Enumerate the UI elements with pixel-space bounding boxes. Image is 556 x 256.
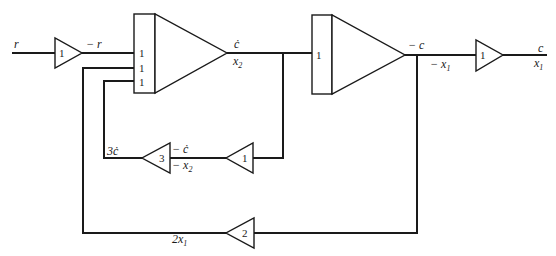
integrator-1-gain-c: 1 [139,76,145,88]
integrator-1-gain-a: 1 [139,47,145,59]
label-neg-x2: − x2 [172,158,192,174]
position-gain-amplifier [226,218,254,248]
integrator-2-gain: 1 [316,49,322,61]
label-cdot: ċ [234,37,240,51]
label-out-c: c [538,41,544,55]
label-out-x1: x1 [533,56,543,72]
integrator-1-gain-b: 1 [139,62,145,74]
label-neg-cdot: − ċ [172,142,189,156]
rate-inverter [226,143,253,173]
integrator-2-amplifier [332,15,405,94]
block-diagram: 1 1 1 1 1 1 1 3 2 r − r ċ x2 − c − x1 c … [0,0,556,256]
label-r: r [14,37,19,51]
rate-feedback-line [253,53,283,158]
integrator-1-amplifier [155,14,227,93]
label-x2: x2 [232,54,242,70]
label-3cdot: 3ċ [106,144,119,158]
input-inverter-gain: 1 [59,47,65,59]
rate-gain-amplifier [142,143,170,173]
rate-inverter-gain: 1 [242,152,248,164]
output-inverter-gain: 1 [480,49,486,61]
position-gain-value: 2 [242,227,248,239]
label-neg-c: − c [408,38,425,52]
integrator-2-input-box [312,15,332,94]
integrator-1-input-box [134,14,155,93]
label-neg-r: − r [86,37,102,51]
label-2x1: 2x1 [172,232,187,248]
label-neg-x1: − x1 [430,57,450,73]
rate-gain-value: 3 [159,152,165,164]
